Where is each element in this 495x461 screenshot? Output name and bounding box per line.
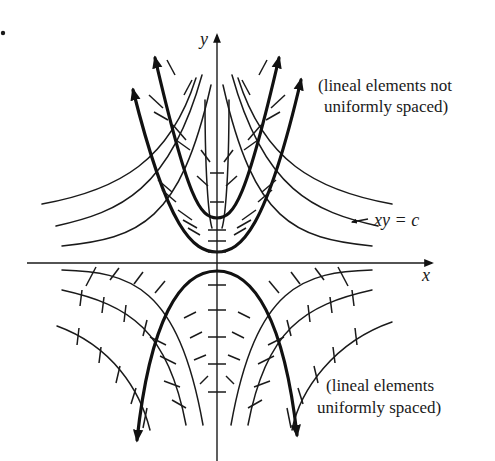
curve-label: xy = c — [373, 210, 419, 230]
y-axis-label: y — [198, 29, 208, 49]
isocline-diagram: y x xy = c (lineal elements not uniforml… — [0, 0, 495, 461]
x-axis-label: x — [421, 265, 430, 285]
figure-bullet — [1, 31, 5, 35]
note-bottom-line1: (lineal elements — [326, 376, 434, 395]
note-top-line1: (lineal elements not — [318, 76, 452, 95]
note-bottom-line2: uniformly spaced) — [317, 398, 441, 417]
note-top-line2: uniformly spaced) — [324, 97, 448, 116]
